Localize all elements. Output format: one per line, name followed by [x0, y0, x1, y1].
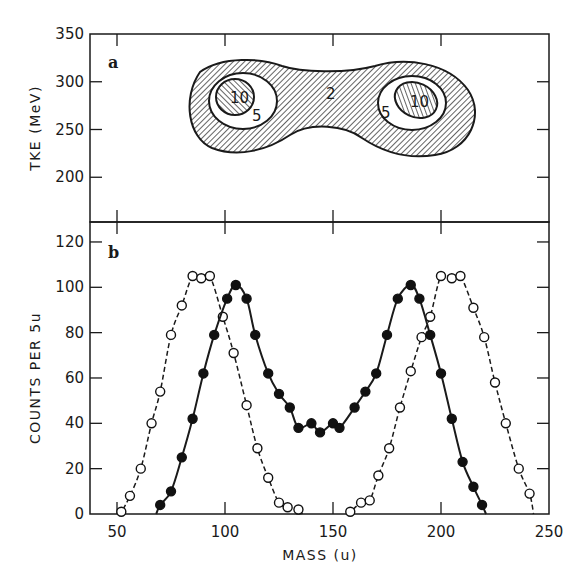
panel-a-frame [90, 34, 549, 222]
filled-data-point [275, 389, 284, 398]
open-data-point [447, 274, 456, 283]
panel-a: 200250300350 a TKE (MeV) 10 5 2 5 10 [27, 25, 549, 222]
filled-data-point [231, 281, 240, 290]
xtick-label: 50 [107, 523, 126, 541]
open-data-point [156, 387, 165, 396]
filled-data-point [210, 330, 219, 339]
open-data-point [229, 349, 238, 358]
ytick-label: 20 [65, 460, 84, 478]
ytick-label: 120 [55, 233, 84, 251]
panel-b-xlabel: MASS (u) [282, 547, 358, 563]
ytick-label: 40 [65, 414, 84, 432]
contour-label-5-right: 5 [381, 104, 391, 122]
filled-data-point [294, 423, 303, 432]
open-data-point [253, 444, 262, 453]
ytick-label: 350 [55, 25, 84, 43]
filled-data-point [393, 294, 402, 303]
open-data-point [357, 498, 366, 507]
filled-data-point [335, 423, 344, 432]
open-data-point [205, 271, 214, 280]
xtick-label: 150 [319, 523, 348, 541]
filled-data-point [307, 419, 316, 428]
series-open [117, 271, 534, 516]
open-data-point [469, 303, 478, 312]
open-data-point [294, 505, 303, 514]
filled-data-point [188, 414, 197, 423]
filled-data-point [447, 414, 456, 423]
open-data-point [406, 367, 415, 376]
filled-data-point [469, 482, 478, 491]
open-data-point [147, 419, 156, 428]
panel-b: 02040608010012050100150200250 b COUNTS P… [27, 222, 563, 563]
contour-label-5-left: 5 [252, 107, 262, 125]
contour-label-10-left: 10 [230, 89, 249, 107]
ytick-label: 200 [55, 168, 84, 186]
open-data-point [480, 333, 489, 342]
filled-data-point [437, 369, 446, 378]
open-data-point [242, 401, 251, 410]
filled-data-point [426, 330, 435, 339]
open-data-point [525, 489, 534, 498]
open-data-point [346, 507, 355, 516]
ytick-label: 300 [55, 73, 84, 91]
filled-data-point [361, 387, 370, 396]
open-data-point [188, 271, 197, 280]
panel-b-label: b [108, 243, 119, 262]
filled-data-point [242, 294, 251, 303]
panel-b-frame [90, 222, 549, 514]
open-data-point [417, 333, 426, 342]
data-series [117, 271, 534, 516]
open-data-point [491, 378, 500, 387]
filled-data-point [316, 428, 325, 437]
contour-label-2: 2 [326, 85, 336, 103]
filled-data-point [251, 330, 260, 339]
filled-data-point [199, 369, 208, 378]
filled-data-point [350, 403, 359, 412]
open-data-point [283, 503, 292, 512]
xtick-label: 200 [427, 523, 456, 541]
filled-data-point [223, 294, 232, 303]
filled-data-point [264, 369, 273, 378]
figure: 200250300350 a TKE (MeV) 10 5 2 5 10 020… [0, 0, 583, 585]
open-data-point [264, 473, 273, 482]
open-data-point [117, 507, 126, 516]
open-data-point [456, 271, 465, 280]
xtick-label: 100 [211, 523, 240, 541]
filled-data-point [156, 500, 165, 509]
filled-data-point [285, 403, 294, 412]
open-data-point [197, 274, 206, 283]
open-data-point [385, 444, 394, 453]
filled-data-point [372, 369, 381, 378]
open-data-point [395, 403, 404, 412]
open-data-point [514, 464, 523, 473]
open-data-point [501, 419, 510, 428]
open-data-point [177, 301, 186, 310]
open-data-point [167, 330, 176, 339]
ytick-label: 80 [65, 324, 84, 342]
filled-data-point [177, 453, 186, 462]
filled-data-point [478, 500, 487, 509]
filled-data-point [383, 330, 392, 339]
ytick-label: 100 [55, 278, 84, 296]
xtick-label: 250 [535, 523, 564, 541]
open-data-point [125, 491, 134, 500]
filled-data-point [406, 281, 415, 290]
contour-map: 10 5 2 5 10 [190, 60, 475, 156]
contour-label-10-right: 10 [410, 93, 429, 111]
open-data-point [437, 271, 446, 280]
filled-data-point [458, 457, 467, 466]
solid-line [156, 285, 486, 514]
open-data-point [426, 312, 435, 321]
open-data-point [365, 496, 374, 505]
open-data-point [275, 498, 284, 507]
panel-b-ylabel: COUNTS PER 5u [27, 312, 43, 444]
ytick-label: 60 [65, 369, 84, 387]
ytick-label: 0 [74, 505, 84, 523]
open-data-point [374, 471, 383, 480]
panel-a-label: a [108, 53, 118, 72]
panel-a-ylabel: TKE (MeV) [27, 85, 43, 172]
ytick-label: 250 [55, 121, 84, 139]
open-data-point [136, 464, 145, 473]
series-filled [156, 281, 487, 514]
filled-data-point [415, 294, 424, 303]
